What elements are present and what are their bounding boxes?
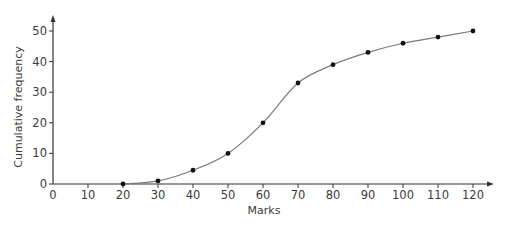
cumulative-frequency-curve bbox=[123, 31, 473, 184]
x-tick-label: 80 bbox=[326, 188, 341, 202]
y-tick-label: 40 bbox=[32, 55, 47, 69]
x-axis-arrow-icon bbox=[487, 182, 494, 187]
data-point bbox=[121, 182, 126, 187]
data-point bbox=[191, 168, 196, 173]
y-axis-ticks: 01020304050 bbox=[32, 24, 53, 191]
y-tick-label: 0 bbox=[40, 177, 47, 191]
x-tick-label: 70 bbox=[291, 188, 306, 202]
x-tick-label: 120 bbox=[462, 188, 484, 202]
x-tick-label: 20 bbox=[116, 188, 131, 202]
x-tick-label: 50 bbox=[221, 188, 236, 202]
data-point bbox=[331, 62, 336, 67]
x-axis-label: Marks bbox=[248, 204, 281, 217]
data-point bbox=[296, 81, 301, 86]
x-tick-label: 10 bbox=[81, 188, 96, 202]
axes bbox=[51, 15, 495, 187]
data-point bbox=[366, 50, 371, 55]
x-tick-label: 90 bbox=[361, 188, 376, 202]
data-point bbox=[226, 151, 231, 156]
y-axis-label: Cumulative frequency bbox=[12, 46, 25, 168]
x-axis-ticks: 0102030405060708090100110120 bbox=[49, 184, 484, 202]
data-point-markers bbox=[121, 29, 476, 187]
x-tick-label: 110 bbox=[427, 188, 449, 202]
data-point bbox=[471, 29, 476, 34]
x-tick-label: 0 bbox=[49, 188, 56, 202]
y-tick-label: 20 bbox=[32, 116, 47, 130]
y-tick-label: 30 bbox=[32, 85, 47, 99]
x-tick-label: 60 bbox=[256, 188, 271, 202]
cumulative-frequency-chart: 01020304050 0102030405060708090100110120… bbox=[0, 0, 507, 226]
y-tick-label: 10 bbox=[32, 146, 47, 160]
data-point bbox=[436, 35, 441, 40]
data-point bbox=[261, 120, 266, 125]
data-point bbox=[156, 179, 161, 184]
x-tick-label: 30 bbox=[151, 188, 166, 202]
y-tick-label: 50 bbox=[32, 24, 47, 38]
y-axis-arrow-icon bbox=[51, 15, 56, 22]
x-tick-label: 40 bbox=[186, 188, 201, 202]
data-point bbox=[401, 41, 406, 46]
x-tick-label: 100 bbox=[392, 188, 414, 202]
